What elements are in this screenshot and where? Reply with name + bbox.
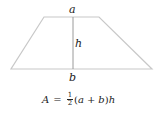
formula-fraction: 1 2 bbox=[67, 92, 73, 107]
formula-equals: = bbox=[53, 94, 61, 105]
label-bottom-base: b bbox=[69, 72, 76, 83]
formula-lhs: A bbox=[42, 94, 49, 105]
formula-h: h bbox=[109, 94, 115, 105]
label-height: h bbox=[75, 38, 82, 49]
label-top-base: a bbox=[69, 4, 76, 15]
formula-a: a bbox=[78, 94, 84, 105]
formula-plus: + bbox=[87, 94, 95, 105]
fraction-denominator: 2 bbox=[68, 100, 72, 107]
area-formula: A = 1 2 ( a + b ) h bbox=[42, 92, 115, 107]
